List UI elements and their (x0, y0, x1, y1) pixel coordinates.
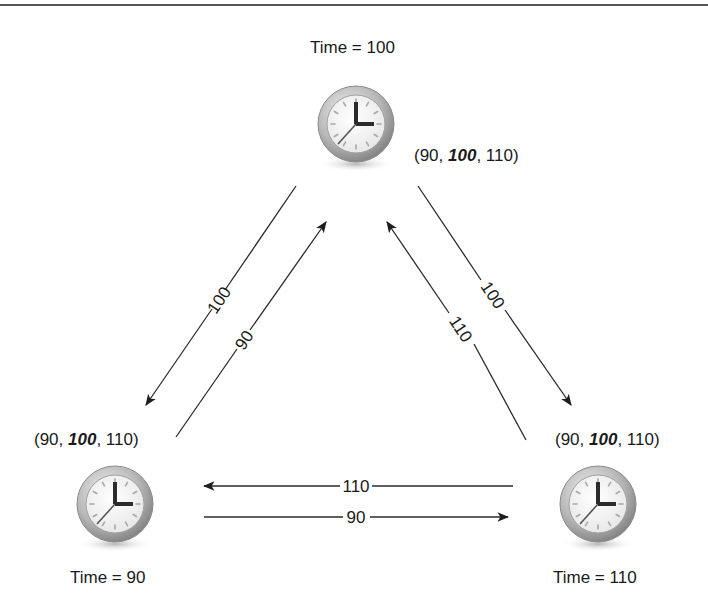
vector-label-top: (90, 100, 110) (414, 146, 519, 166)
edge-right-top-segment-a (474, 344, 526, 440)
edge-top-left-arrow (146, 309, 212, 405)
edge-left-top-segment-a (176, 349, 237, 437)
edge-top-left-segment-a (225, 186, 296, 290)
vector-label-right: (90, 100, 110) (555, 430, 660, 450)
clock-icon-left (77, 466, 153, 552)
edge-right-top-arrow (387, 222, 449, 313)
edge-top-right-segment-a (418, 186, 481, 280)
diagram-canvas: 100 90 100 110 110 90 (0, 0, 708, 614)
time-label-left: Time = 90 (70, 568, 145, 588)
clock-icon-top (318, 86, 394, 172)
edge-label-top-right: 100 (477, 278, 509, 312)
clock-icon-right (560, 466, 636, 552)
edge-label-left-right: 90 (347, 508, 366, 527)
edge-label-left-top: 90 (231, 327, 257, 353)
edge-left-top-arrow (250, 222, 326, 330)
edge-top-right-arrow (505, 310, 571, 405)
vector-label-left: (90, 100, 110) (34, 430, 139, 450)
edge-label-top-left: 100 (204, 283, 236, 317)
time-label-right: Time = 110 (553, 568, 637, 588)
time-label-top: Time = 100 (310, 38, 395, 58)
edge-label-right-left: 110 (342, 477, 369, 496)
edge-label-right-top: 110 (445, 313, 476, 346)
